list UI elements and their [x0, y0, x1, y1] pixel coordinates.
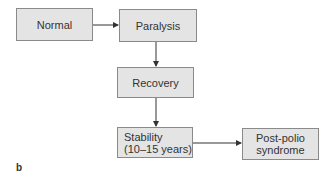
node-recovery-label: Recovery — [132, 77, 178, 89]
node-normal: Normal — [16, 8, 93, 41]
panel-label: b — [16, 162, 22, 173]
node-paralysis-label: Paralysis — [136, 20, 181, 32]
node-stability-label: Stability (10–15 years) — [124, 131, 192, 155]
node-paralysis: Paralysis — [119, 9, 197, 42]
node-recovery: Recovery — [117, 67, 194, 98]
node-stability: Stability (10–15 years) — [117, 127, 193, 158]
node-post-polio: Post-polio syndrome — [242, 128, 319, 160]
node-normal-label: Normal — [37, 19, 72, 31]
node-post-polio-label: Post-polio syndrome — [256, 132, 305, 156]
